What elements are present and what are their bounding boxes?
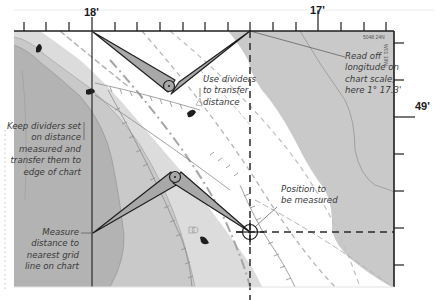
latitude-label-49: 49': [415, 100, 430, 112]
annotation-keep-dividers: Keep dividers set on distance measured a…: [6, 121, 81, 178]
top-scale: [14, 10, 394, 31]
chart-diagram: 18' 17' 49' 5048 24N W01 19W Read off lo…: [0, 0, 436, 300]
annotation-use-dividers: Use dividers to transfer distance: [203, 74, 256, 108]
chart-ref-top: 5048 24N: [363, 34, 385, 40]
annotation-read-off: Read off longitude on chart scale, here …: [345, 51, 401, 97]
annotation-position: Position to be measured: [281, 184, 338, 207]
annotation-measure: Measure distance to nearest grid line on…: [10, 227, 79, 273]
longitude-label-17: 17': [310, 4, 325, 16]
longitude-label-18: 18': [84, 6, 99, 18]
